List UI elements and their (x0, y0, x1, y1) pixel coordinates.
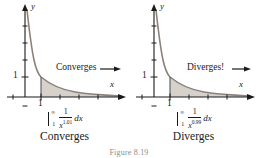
fraction-denominator: x0.99 (188, 118, 201, 130)
formula-converges: ∞11x1.01dx (0, 108, 129, 130)
right-arrow-icon (232, 66, 251, 71)
y-axis-label: y (160, 1, 164, 11)
x-axis-arrowhead (118, 94, 126, 100)
panel-converges: Converges y x 1 1 ∞11x1.01dx Converges (0, 0, 129, 146)
denominator-exponent: 1.01 (63, 119, 73, 125)
annotation-diverges: Diverges! (187, 62, 224, 72)
integral-lower-limit: 1 (181, 121, 184, 127)
caption-converges: Converges (0, 130, 129, 142)
integral-limits: ∞1 (51, 111, 58, 127)
shaded-area (170, 77, 248, 97)
caption-diverges: Diverges (129, 130, 258, 142)
panel-diverges: Diverges! y x 1 1 ∞11x0.99dx Diverges (129, 0, 258, 146)
x-axis-label: x (110, 79, 114, 89)
y-tick-label-1: 1 (13, 70, 18, 80)
figure-improper-integrals: Converges y x 1 1 ∞11x1.01dx Converges (0, 0, 258, 158)
y-axis-arrowhead (151, 4, 157, 11)
fraction: 1x0.99 (188, 108, 201, 130)
integral-upper-limit: ∞ (51, 110, 55, 116)
figure-caption: Figure 8.19 (0, 148, 258, 158)
x-axis-label: x (239, 79, 243, 89)
differential: dx (203, 113, 212, 123)
x-tick-label-1: 1 (167, 98, 172, 108)
shaded-area (41, 77, 119, 97)
plot-converges: Converges y x 1 1 (0, 0, 129, 112)
fraction-numerator: 1 (59, 108, 72, 116)
integral-upper-limit: ∞ (180, 110, 184, 116)
chart-converges-svg (0, 0, 129, 112)
y-tick-label-1: 1 (142, 70, 147, 80)
formula-diverges: ∞11x0.99dx (129, 108, 258, 130)
differential: dx (74, 113, 83, 123)
fraction: 1x1.01 (59, 108, 72, 130)
annotation-converges: Converges (56, 62, 96, 72)
integral-limits: ∞1 (180, 111, 187, 127)
denominator-exponent: 0.99 (192, 119, 202, 125)
x-tick-label-1: 1 (38, 98, 43, 108)
fraction-numerator: 1 (188, 108, 201, 116)
right-arrow-icon (100, 66, 121, 71)
y-axis-label: y (31, 1, 35, 11)
chart-diverges-svg (129, 0, 258, 112)
fraction-denominator: x1.01 (59, 118, 72, 130)
x-axis-arrowhead (247, 94, 255, 100)
y-axis-arrowhead (22, 4, 28, 11)
integral-lower-limit: 1 (52, 121, 55, 127)
plot-diverges: Diverges! y x 1 1 (129, 0, 258, 112)
